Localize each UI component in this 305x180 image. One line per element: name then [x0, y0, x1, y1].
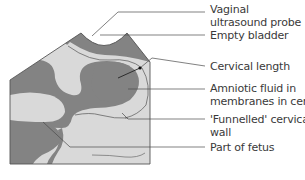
label-line: Empty bladder — [210, 29, 288, 42]
label-amniotic-fluid: Amniotic fluid in membranes in cervix — [210, 82, 305, 108]
label-line: Cervical length — [210, 60, 290, 73]
label-vaginal-ultrasound-probe: Vaginal ultrasound probe — [210, 3, 301, 29]
label-line: 'Funnelled' cervical — [210, 113, 305, 126]
label-empty-bladder: Empty bladder — [210, 29, 288, 42]
label-funnelled-cervical-wall: 'Funnelled' cervical wall — [210, 113, 305, 139]
label-line: ultrasound probe — [210, 16, 301, 29]
label-cervical-length: Cervical length — [210, 60, 290, 73]
label-line: membranes in cervix — [210, 95, 305, 108]
amniotic-fluid — [92, 62, 137, 101]
label-part-of-fetus: Part of fetus — [210, 141, 274, 154]
label-line: Part of fetus — [210, 141, 274, 154]
cervical-length-marker — [138, 66, 141, 69]
label-line: Vaginal — [210, 3, 301, 16]
label-line: wall — [210, 126, 305, 139]
label-line: Amniotic fluid in — [210, 82, 305, 95]
leader-probe — [92, 12, 205, 36]
